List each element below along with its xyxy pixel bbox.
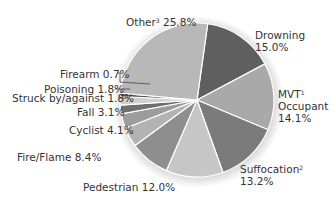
pie-slices (120, 23, 274, 177)
label-poisoning: Poisoning 1.8% (44, 83, 124, 95)
label-mvt-occupant: MVT1Occupant14.1% (278, 88, 328, 124)
label-pedestrian: Pedestrian 12.0% (83, 181, 175, 193)
label-fire-flame: Fire/Flame 8.4% (17, 151, 101, 163)
label-drowning: Drowning15.0% (255, 29, 305, 53)
label-suffocation: Suffocation213.2% (240, 163, 303, 187)
slice-other (120, 23, 207, 100)
label-other: Other3 25.8% (126, 16, 196, 28)
label-firearm: Firearm 0.7% (60, 68, 130, 80)
label-fall: Fall 3.1% (77, 106, 124, 118)
label-cyclist: Cyclist 4.1% (69, 124, 134, 136)
